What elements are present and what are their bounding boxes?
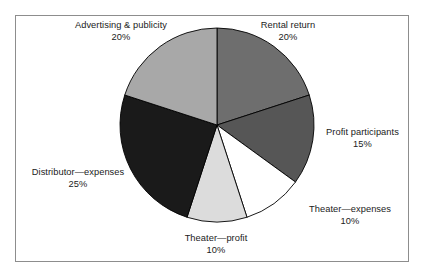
pie-label-value: 10% xyxy=(288,216,412,228)
chart-plot-area: Advertising & publicity 20% Rental retur… xyxy=(0,0,425,279)
pie-label-rental-return: Rental return 20% xyxy=(232,20,344,43)
pie-chart-figure: Advertising & publicity 20% Rental retur… xyxy=(0,0,425,279)
pie-label-value: 15% xyxy=(305,139,420,151)
pie-label-theater-expenses: Theater—expenses 10% xyxy=(288,204,412,227)
pie-label-value: 10% xyxy=(155,245,277,257)
pie-label-name: Theater—profit xyxy=(155,233,277,245)
pie-label-profit-participants: Profit participants 15% xyxy=(305,127,420,150)
pie-label-theater-profit: Theater—profit 10% xyxy=(155,233,277,256)
pie-label-name: Theater—expenses xyxy=(288,204,412,216)
pie-label-name: Rental return xyxy=(232,20,344,32)
pie-label-value: 20% xyxy=(232,32,344,44)
pie-label-name: Distributor—expenses xyxy=(9,167,147,179)
pie-label-distributor-expenses: Distributor—expenses 25% xyxy=(9,167,147,190)
pie-label-value: 20% xyxy=(48,32,194,44)
pie-label-name: Profit participants xyxy=(305,127,420,139)
pie-label-advertising-publicity: Advertising & publicity 20% xyxy=(48,20,194,43)
pie-label-name: Advertising & publicity xyxy=(48,20,194,32)
pie-label-value: 25% xyxy=(9,179,147,191)
